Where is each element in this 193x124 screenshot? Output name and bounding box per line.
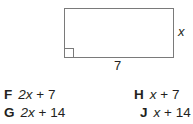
- side-label-length: 7: [114, 58, 121, 73]
- rectangle-figure: x 7: [0, 0, 193, 75]
- option-letter: J: [140, 105, 148, 121]
- answer-option-h[interactable]: Hx + 7: [134, 87, 179, 103]
- option-letter: F: [4, 87, 12, 103]
- answer-option-g[interactable]: G2x + 14: [4, 105, 65, 121]
- option-letter: H: [134, 87, 144, 103]
- rectangle-shape: [64, 8, 174, 58]
- option-expression: x + 7: [150, 87, 180, 102]
- option-expression: x + 14: [154, 105, 191, 120]
- option-expression: 2x + 14: [21, 105, 66, 120]
- side-label-width: x: [178, 24, 185, 39]
- answer-option-f[interactable]: F2x + 7: [4, 87, 55, 103]
- answer-option-j[interactable]: Jx + 14: [140, 105, 191, 121]
- right-angle-marker-icon: [65, 48, 74, 57]
- option-letter: G: [4, 105, 15, 121]
- option-expression: 2x + 7: [18, 87, 55, 102]
